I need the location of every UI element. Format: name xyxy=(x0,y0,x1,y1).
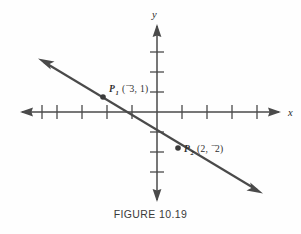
point-label-p1-comma: , xyxy=(135,84,137,94)
x-axis-right-arrowhead xyxy=(268,108,281,117)
point-label-p2: P 2 ( 2 , − 2 ) xyxy=(184,141,223,156)
x-axis-label: x xyxy=(287,107,293,118)
point-label-p2-comma: , xyxy=(206,144,208,154)
plotted-line xyxy=(44,62,257,190)
figure-caption: FIGURE 10.19 xyxy=(0,208,301,220)
y-axis-top-arrowhead xyxy=(153,24,162,37)
point-label-p1-close-paren: ) xyxy=(145,84,148,95)
point-label-p1: P 1 ( − 3 , 1 ) xyxy=(109,81,148,96)
point-label-p2-name: P xyxy=(184,144,190,154)
point-label-p1-name: P xyxy=(109,84,115,94)
point-label-p2-close-paren: ) xyxy=(220,144,223,155)
y-axis-label: y xyxy=(151,9,157,20)
coordinate-plane-graph: P 1 ( − 3 , 1 ) P 2 ( 2 , − 2 ) x y xyxy=(0,0,301,234)
x-axis-left-arrowhead xyxy=(20,108,33,117)
figure-container: P 1 ( − 3 , 1 ) P 2 ( 2 , − 2 ) x y FIGU… xyxy=(0,0,301,234)
y-axis-bottom-arrowhead xyxy=(153,189,162,202)
point-marker-p2 xyxy=(175,145,181,151)
point-marker-p1 xyxy=(100,94,106,100)
point-label-p1-subscript: 1 xyxy=(116,89,119,96)
